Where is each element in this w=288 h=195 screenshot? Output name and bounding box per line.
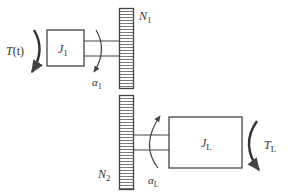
gear-2-label: N2	[97, 167, 111, 183]
load-torque-label: TL	[264, 138, 276, 154]
input-accel-arrow	[94, 30, 102, 72]
input-accel-label: α1	[92, 76, 102, 91]
gear-train-diagram: T(t) J1 α1 N1 N2 αL JL TL	[0, 0, 288, 195]
gear-1-label: N1	[138, 9, 152, 25]
input-torque-arrow	[32, 30, 40, 72]
gear-2	[120, 96, 134, 190]
load-accel-label: αL	[148, 174, 159, 189]
input-torque-label: T(t)	[6, 44, 24, 58]
load-accel-arrow	[149, 116, 160, 168]
load-torque-arrow	[249, 121, 259, 170]
gear-1	[120, 9, 134, 89]
